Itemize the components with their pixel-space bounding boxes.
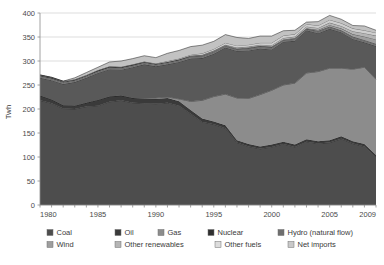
legend-label: Nuclear bbox=[218, 228, 244, 237]
y-tick-label: 100 bbox=[22, 153, 35, 162]
x-tick-label: 2009 bbox=[359, 210, 376, 219]
legend-swatch bbox=[158, 230, 164, 236]
legend-item-other-fuels[interactable]: Other fuels bbox=[215, 240, 261, 249]
legend-item-wind[interactable]: Wind bbox=[47, 240, 74, 249]
x-tick-label: 2000 bbox=[263, 210, 280, 219]
y-tick-label: 150 bbox=[22, 129, 35, 138]
legend-swatch bbox=[288, 242, 294, 248]
x-tick-label: 2005 bbox=[321, 210, 338, 219]
y-axis-ticks: 050100150200250300350400 bbox=[22, 9, 40, 210]
legend-label: Other renewables bbox=[125, 240, 184, 249]
y-tick-label: 300 bbox=[22, 57, 35, 66]
y-tick-label: 400 bbox=[22, 9, 35, 18]
legend: CoalOilGasNuclearHydro (natural flow)Win… bbox=[47, 228, 353, 249]
y-tick-label: 250 bbox=[22, 81, 35, 90]
legend-item-coal[interactable]: Coal bbox=[47, 228, 72, 237]
legend-swatch bbox=[115, 230, 121, 236]
legend-label: Other fuels bbox=[225, 240, 262, 249]
y-tick-label: 0 bbox=[31, 201, 35, 210]
x-tick-label: 1995 bbox=[205, 210, 222, 219]
legend-swatch bbox=[47, 230, 53, 236]
legend-label: Gas bbox=[168, 228, 182, 237]
legend-label: Oil bbox=[125, 228, 135, 237]
legend-item-hydro-natural-flow[interactable]: Hydro (natural flow) bbox=[278, 228, 353, 237]
y-axis-title: Twh bbox=[4, 105, 13, 120]
x-tick-label: 1990 bbox=[148, 210, 165, 219]
legend-item-other-renewables[interactable]: Other renewables bbox=[115, 240, 184, 249]
x-axis-ticks: 1980198519901995200020052009 bbox=[40, 205, 376, 219]
legend-label: Coal bbox=[57, 228, 73, 237]
x-tick-label: 1980 bbox=[40, 210, 57, 219]
y-tick-label: 200 bbox=[22, 105, 35, 114]
chart-container: 050100150200250300350400 198019851990199… bbox=[0, 0, 384, 265]
legend-swatch bbox=[208, 230, 214, 236]
y-tick-label: 350 bbox=[22, 33, 35, 42]
legend-item-oil[interactable]: Oil bbox=[115, 228, 134, 237]
y-tick-label: 50 bbox=[27, 177, 35, 186]
legend-label: Hydro (natural flow) bbox=[288, 228, 354, 237]
legend-swatch bbox=[115, 242, 121, 248]
legend-item-nuclear[interactable]: Nuclear bbox=[208, 228, 244, 237]
legend-swatch bbox=[215, 242, 221, 248]
stacked-areas bbox=[40, 15, 376, 205]
legend-item-gas[interactable]: Gas bbox=[158, 228, 182, 237]
legend-label: Net imports bbox=[298, 240, 337, 249]
legend-item-net-imports[interactable]: Net imports bbox=[288, 240, 336, 249]
area-chart: 050100150200250300350400 198019851990199… bbox=[0, 0, 384, 265]
legend-swatch bbox=[47, 242, 53, 248]
legend-swatch bbox=[278, 230, 284, 236]
legend-label: Wind bbox=[57, 240, 74, 249]
x-tick-label: 1985 bbox=[90, 210, 107, 219]
